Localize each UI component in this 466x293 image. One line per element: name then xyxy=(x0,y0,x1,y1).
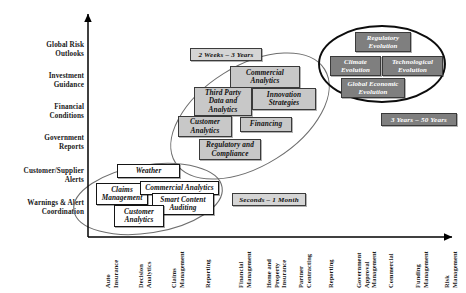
axes xyxy=(0,0,466,293)
figure-canvas: Global RiskOutlooks InvestmentGuidance F… xyxy=(0,0,466,293)
